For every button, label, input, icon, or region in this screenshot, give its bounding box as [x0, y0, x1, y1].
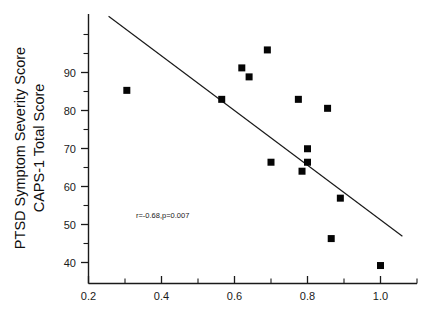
- y-tick-label-50: 50: [64, 219, 76, 231]
- y-tick-label-80: 80: [64, 105, 76, 117]
- data-point-marker: [218, 96, 225, 103]
- x-tick-label-0-4: 0.4: [154, 290, 169, 302]
- y-tick-label-70: 70: [64, 143, 76, 155]
- plot-canvas: 90 80 70 60 50 40 0.2 0.4 0.6 0.8 1.0 PT…: [0, 0, 423, 323]
- y-tick-label-40: 40: [64, 257, 76, 269]
- data-point-marker: [304, 159, 311, 166]
- data-point-marker: [295, 96, 302, 103]
- y-axis-minor-ticks: [84, 35, 89, 244]
- data-point-marker: [304, 145, 311, 152]
- x-axis-major-ticks: [89, 276, 381, 284]
- correlation-annotation: r=-0.68,p=0.007: [136, 211, 189, 220]
- data-point-marker: [328, 235, 335, 242]
- data-point-marker: [299, 168, 306, 175]
- data-point-marker: [246, 73, 253, 80]
- data-point-marker: [268, 159, 275, 166]
- data-point-marker: [123, 87, 130, 94]
- data-point-marker: [337, 195, 344, 202]
- y-tick-label-90: 90: [64, 67, 76, 79]
- data-points-group: [123, 46, 384, 269]
- regression-fit-line: [109, 16, 403, 236]
- y-axis-title-line2: CAPS-1 Total Score: [31, 84, 47, 213]
- data-point-marker: [377, 262, 384, 269]
- y-tick-label-60: 60: [64, 181, 76, 193]
- data-point-marker: [264, 46, 271, 53]
- y-axis-title-line1: PTSD Symptom Severity Score: [12, 47, 28, 249]
- data-point-marker: [238, 64, 245, 71]
- x-tick-label-0-8: 0.8: [300, 290, 315, 302]
- scatter-plot-figure: 90 80 70 60 50 40 0.2 0.4 0.6 0.8 1.0 PT…: [0, 0, 423, 323]
- data-point-marker: [324, 105, 331, 112]
- x-tick-label-0-6: 0.6: [227, 290, 242, 302]
- x-tick-label-1-0: 1.0: [373, 290, 388, 302]
- x-axis-minor-ticks: [125, 279, 417, 284]
- x-tick-label-0-2: 0.2: [81, 290, 96, 302]
